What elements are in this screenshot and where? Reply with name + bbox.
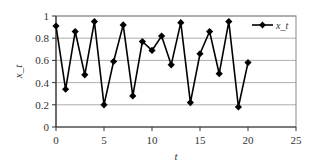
data-point — [91, 18, 98, 25]
data-point — [216, 70, 223, 77]
x-tick-label: 5 — [101, 134, 107, 146]
data-point — [177, 19, 184, 26]
data-point — [81, 71, 88, 78]
y-tick-label: 0.8 — [35, 32, 49, 44]
data-point — [225, 18, 232, 25]
data-point — [72, 28, 79, 35]
legend-marker — [259, 22, 266, 29]
legend-label: x_t — [275, 20, 288, 31]
data-point — [196, 50, 203, 57]
line-chart: 00.20.40.60.810510152025 x_t t x_t — [0, 0, 315, 165]
y-axis-title: x_t — [12, 64, 24, 79]
y-tick-label: 0.2 — [35, 99, 49, 111]
data-point — [120, 21, 127, 28]
data-point — [129, 92, 136, 99]
y-tick-label: 0.6 — [35, 54, 49, 66]
data-point — [100, 101, 107, 108]
x-tick-label: 25 — [291, 134, 303, 146]
x-tick-label: 15 — [195, 134, 207, 146]
data-point — [62, 86, 69, 93]
legend: x_t — [252, 20, 288, 31]
x-tick-label: 10 — [147, 134, 159, 146]
data-point — [52, 22, 59, 29]
data-point — [206, 28, 213, 35]
x-tick-label: 20 — [243, 134, 255, 146]
series-line-x_t — [56, 22, 248, 107]
y-tick-label: 0 — [44, 121, 50, 133]
data-point — [168, 61, 175, 68]
data-point — [110, 58, 117, 65]
x-tick-label: 0 — [53, 134, 59, 146]
y-tick-label: 1 — [44, 10, 50, 22]
x-axis-title: t — [174, 150, 178, 162]
y-tick-label: 0.4 — [35, 77, 49, 89]
